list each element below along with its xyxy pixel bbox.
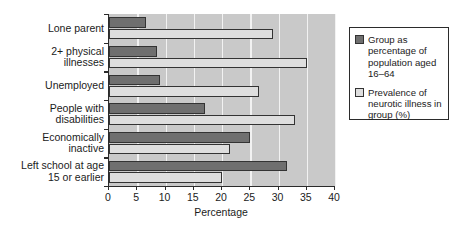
chart-legend: Group as percentage of population aged 1…	[349, 27, 449, 120]
bar-group-percentage	[109, 161, 287, 172]
legend-entry-group-percentage: Group as percentage of population aged 1…	[355, 34, 443, 80]
x-axis-tick-label: 10	[152, 191, 178, 203]
y-axis-tick	[104, 129, 108, 130]
category-label: Left school at age 15 or earlier	[0, 160, 104, 183]
category-label: Economically inactive	[0, 132, 104, 155]
bar-group-percentage	[109, 103, 205, 114]
bar-prevalence	[109, 144, 230, 155]
x-axis-tick	[334, 186, 335, 190]
bar-prevalence	[109, 115, 295, 126]
x-axis-title: Percentage	[108, 206, 334, 218]
x-axis-tick-label: 20	[208, 191, 234, 203]
x-axis-tick-label: 35	[293, 191, 319, 203]
x-axis-tick	[221, 186, 222, 190]
legend-label: Prevalence of neurotic illness in group …	[368, 87, 443, 121]
bar-prevalence	[109, 172, 222, 183]
y-axis-tick	[104, 14, 108, 15]
gridline	[335, 14, 336, 186]
x-axis-tick	[278, 186, 279, 190]
category-axis-labels: Lone parent2+ physical illnessesUnemploy…	[0, 14, 104, 186]
y-axis-tick	[104, 43, 108, 44]
bar-group-percentage	[109, 132, 250, 143]
x-axis-tick-label: 15	[180, 191, 206, 203]
bar-prevalence	[109, 86, 259, 97]
x-axis-tick	[108, 186, 109, 190]
x-axis-tick-label: 30	[265, 191, 291, 203]
category-label: 2+ physical illnesses	[0, 46, 104, 69]
category-label: People with disabilities	[0, 103, 104, 126]
y-axis-tick	[104, 71, 108, 72]
bar-group-percentage	[109, 75, 160, 86]
x-axis-tick	[249, 186, 250, 190]
x-axis-tick	[136, 186, 137, 190]
x-axis-tick	[193, 186, 194, 190]
legend-entry-prevalence: Prevalence of neurotic illness in group …	[355, 87, 443, 121]
bar-prevalence	[109, 58, 307, 69]
plot-area	[108, 14, 335, 186]
category-label: Lone parent	[0, 23, 104, 35]
x-axis-tick	[165, 186, 166, 190]
light-gray-swatch-icon	[355, 88, 364, 97]
x-axis-tick-label: 25	[236, 191, 262, 203]
x-axis-tick-label: 0	[95, 191, 121, 203]
x-axis-tick	[306, 186, 307, 190]
y-axis-tick	[104, 100, 108, 101]
legend-label: Group as percentage of population aged 1…	[368, 34, 443, 80]
bar-group-percentage	[109, 17, 146, 28]
category-label: Unemployed	[0, 80, 104, 92]
x-axis-tick-label: 5	[123, 191, 149, 203]
gridline	[307, 14, 308, 186]
y-axis-tick	[104, 157, 108, 158]
dark-gray-swatch-icon	[355, 35, 364, 44]
bar-prevalence	[109, 29, 273, 40]
bar-group-percentage	[109, 46, 157, 57]
x-axis-tick-label: 40	[321, 191, 347, 203]
bar-chart-figure: Lone parent2+ physical illnessesUnemploy…	[0, 0, 458, 230]
